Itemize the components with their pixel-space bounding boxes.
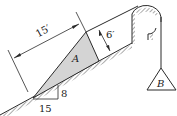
height-label: 6′ xyxy=(106,29,115,40)
slope-run-label: 15 xyxy=(39,103,52,114)
length-label: 15′ xyxy=(34,22,53,39)
height-dimension: 6′ xyxy=(99,29,115,51)
block-a-label: A xyxy=(71,53,79,64)
figure: A B 15′ 6′ 8 15 xyxy=(0,0,177,116)
weight-b-label: B xyxy=(156,78,164,89)
weight-b: B xyxy=(147,68,176,90)
pulley-post xyxy=(132,5,161,44)
slope-rise-label: 8 xyxy=(61,88,67,99)
